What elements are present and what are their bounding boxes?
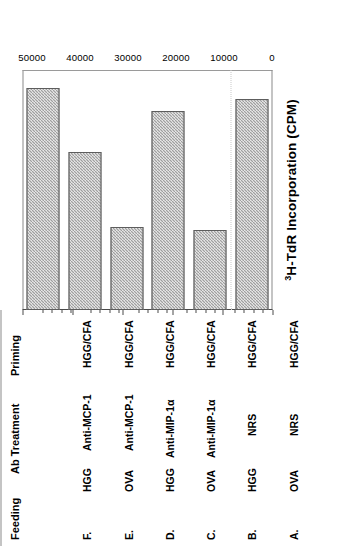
bar-a [235, 99, 268, 310]
tick-label-30000: 30000 [114, 52, 142, 63]
minor-tick [214, 310, 215, 313]
row-label-e: E. [122, 530, 134, 540]
row-label-f: F. [80, 532, 92, 540]
cell-c-priming: HGG/CFA [204, 320, 216, 368]
cell-e-ab-treatment: Anti-MCP-1 [122, 394, 134, 451]
minor-tick [51, 310, 52, 313]
minor-tick [90, 310, 91, 313]
bar-f [26, 88, 59, 310]
cell-f-ab-treatment: Anti-MCP-1 [80, 394, 92, 451]
minor-tick [234, 310, 235, 313]
minor-tick [147, 310, 148, 313]
minor-tick [205, 310, 206, 313]
tick-20000 [172, 310, 173, 315]
tick-label-40000: 40000 [66, 52, 94, 63]
row-label-b: B. [245, 530, 257, 541]
table-top-rule [0, 310, 1, 546]
tick-30000 [122, 310, 123, 315]
cell-a-feeding: OVA [287, 470, 299, 492]
cell-e-feeding: OVA [122, 470, 134, 492]
bar-c [151, 111, 184, 310]
cell-f-feeding: HGG [80, 468, 92, 492]
condition-table: Feeding Ab Treatment Priming A. OVA NRS … [0, 310, 310, 546]
plot-frame-top [22, 70, 23, 310]
tick-10000 [222, 310, 223, 315]
minor-tick [70, 310, 71, 313]
minor-tick [243, 310, 244, 313]
bar-e [68, 152, 101, 310]
column-header-priming: Priming [8, 335, 20, 376]
axis-title-superscript: 3 [282, 276, 292, 281]
minor-tick [118, 310, 119, 313]
cell-b-feeding: HGG [245, 468, 257, 492]
tick-label-50000: 50000 [18, 52, 46, 63]
minor-tick [186, 310, 187, 313]
tick-50000 [22, 310, 23, 315]
cell-a-ab-treatment: NRS [287, 414, 299, 436]
bar-d [110, 227, 143, 310]
row-label-d: D. [163, 530, 175, 541]
minor-tick [99, 310, 100, 313]
tick-0 [272, 310, 273, 315]
figure-stage: Feeding Ab Treatment Priming A. OVA NRS … [0, 0, 337, 546]
minor-tick [109, 310, 110, 313]
tick-label-10000: 10000 [210, 52, 238, 63]
plot-frame-right [22, 70, 272, 71]
cell-f-priming: HGG/CFA [80, 320, 92, 368]
cell-b-priming: HGG/CFA [245, 320, 257, 368]
bar-b [193, 230, 226, 310]
tick-label-20000: 20000 [162, 52, 190, 63]
axis-title-text: H-TdR Incorporation (CPM) [284, 99, 299, 275]
cell-d-ab-treatment: Anti-MIP-1α [163, 400, 175, 458]
gridline-8500 [230, 70, 231, 310]
minor-tick [42, 310, 43, 313]
minor-tick [157, 310, 158, 313]
tick-40000 [72, 310, 73, 315]
cell-a-priming: HGG/CFA [287, 320, 299, 368]
minor-tick [253, 310, 254, 313]
minor-tick [262, 310, 263, 313]
cell-c-feeding: OVA [204, 470, 216, 492]
axis-title: 3H-TdR Incorporation (CPM) [282, 70, 299, 310]
plot-frame-bottom [271, 70, 272, 310]
minor-tick [166, 310, 167, 313]
column-header-ab-treatment: Ab Treatment [8, 404, 20, 474]
column-header-feeding: Feeding [8, 498, 20, 540]
row-label-c: C. [204, 530, 216, 541]
minor-tick [195, 310, 196, 313]
bar-chart-plot-area [22, 70, 272, 310]
minor-tick [61, 310, 62, 313]
cell-b-ab-treatment: NRS [245, 414, 257, 436]
cell-c-ab-treatment: Anti-MIP-1α [204, 400, 216, 458]
tick-label-0: 0 [269, 52, 275, 63]
cell-d-feeding: HGG [163, 468, 175, 492]
cell-e-priming: HGG/CFA [122, 320, 134, 368]
minor-tick [138, 310, 139, 313]
row-label-a: A. [287, 530, 299, 541]
cell-d-priming: HGG/CFA [163, 320, 175, 368]
